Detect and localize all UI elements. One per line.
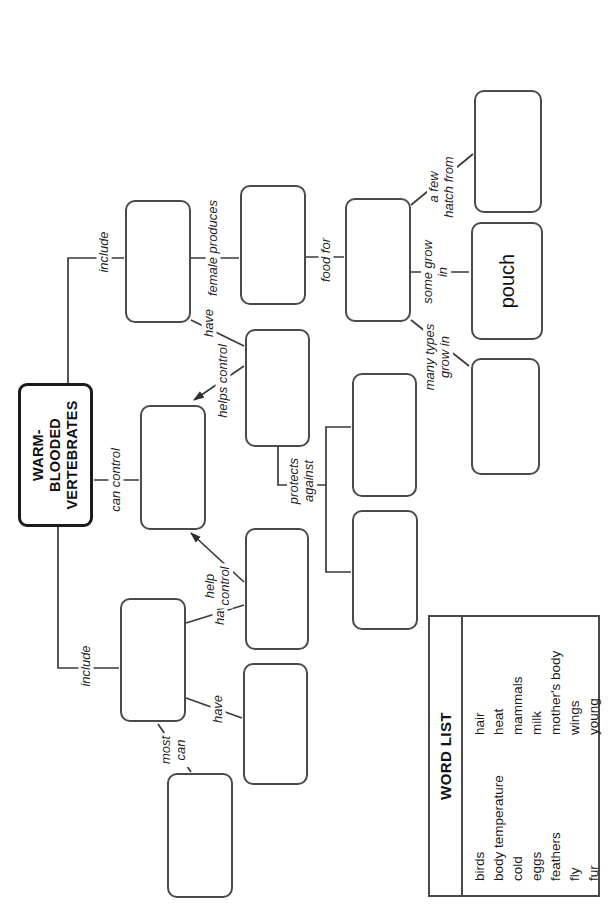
label-have-mammals: have <box>202 306 217 340</box>
word-item: hair <box>470 617 489 735</box>
word-list-column-2: hair heat mammals milk mother's body win… <box>470 617 603 735</box>
title-box: WARM- BLOODED VERTEBRATES <box>18 383 93 527</box>
blank-box-include-right <box>125 200 191 323</box>
concept-map-stage: WARM- BLOODED VERTEBRATES pouch include … <box>0 0 611 924</box>
word-list-header: WORD LIST <box>430 617 463 895</box>
word-item: mammals <box>508 617 527 735</box>
word-item: body temperature <box>489 735 508 881</box>
connector-protects-bracket <box>326 427 351 572</box>
label-can-control: can control <box>109 445 124 515</box>
label-female-produces: female produces <box>206 197 221 299</box>
blank-box-many-types-grow-in <box>471 358 540 475</box>
label-food-for: food for <box>319 235 334 285</box>
blank-box-protects-left <box>352 510 418 630</box>
word-item: birds <box>470 735 489 881</box>
word-item: cold <box>508 735 527 881</box>
blank-box-most-can <box>167 773 233 898</box>
blank-box-have-feathers <box>245 528 309 650</box>
label-include-left: include <box>79 642 94 689</box>
word-list-columns: birds body temperature cold eggs feather… <box>463 617 603 895</box>
label-helps-control: helps control <box>216 341 231 421</box>
word-item: fly <box>565 735 584 881</box>
blank-box-have-wings <box>243 663 308 785</box>
pouch-box: pouch <box>471 222 543 340</box>
word-item: young <box>584 617 603 735</box>
blank-box-can-control <box>140 405 206 530</box>
word-item: fur <box>584 735 603 881</box>
word-item: milk <box>527 617 546 735</box>
blank-box-include-left <box>120 598 186 722</box>
word-list: WORD LIST birds body temperature cold eg… <box>428 615 600 897</box>
label-many-types-grow-in: many types grow in <box>423 321 453 393</box>
label-some-grow-in: some grow in <box>421 237 451 307</box>
word-item: heat <box>489 617 508 735</box>
label-most-can: most can <box>159 733 189 767</box>
blank-box-have-mammals <box>245 329 310 447</box>
blank-box-female-produces <box>240 185 306 305</box>
blank-box-food-for <box>345 198 411 322</box>
label-a-few-hatch-from: a few hatch from <box>427 153 457 220</box>
label-have-wings: have <box>211 692 226 726</box>
pouch-text: pouch <box>496 254 519 309</box>
word-item: eggs <box>527 735 546 881</box>
blank-box-hatch-from <box>474 90 542 213</box>
label-protects-against: protects against <box>287 455 317 507</box>
title-text: WARM- BLOODED VERTEBRATES <box>30 400 80 509</box>
word-item: mother's body <box>546 617 565 735</box>
blank-box-protects-right <box>352 373 417 497</box>
word-item: wings <box>565 617 584 735</box>
word-list-column-1: birds body temperature cold eggs feather… <box>470 735 603 881</box>
label-include-right: include <box>97 228 112 275</box>
label-help-control: help control <box>203 563 233 608</box>
connector-include-right <box>68 258 124 383</box>
word-item: feathers <box>546 735 565 881</box>
